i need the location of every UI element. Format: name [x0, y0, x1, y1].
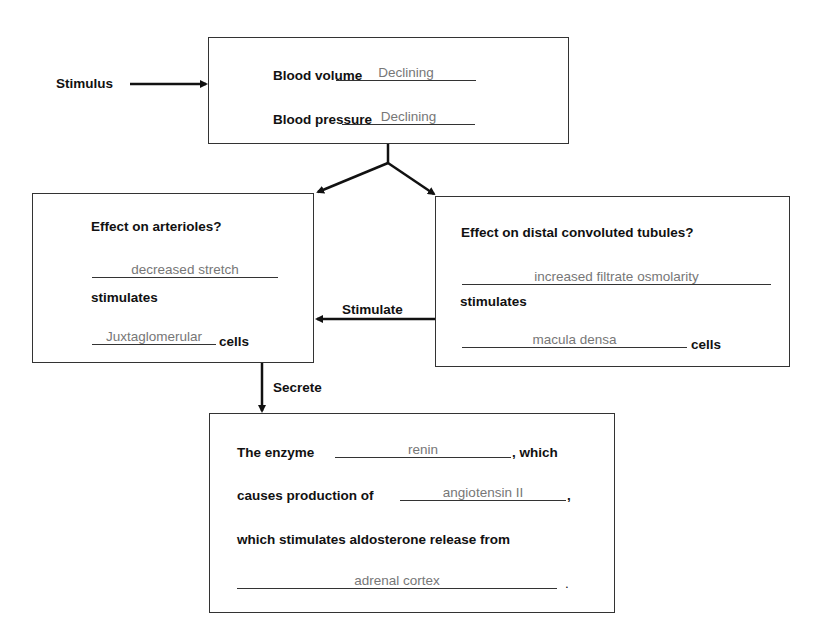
enzyme-line3: which stimulates aldosterone release fro… — [237, 532, 510, 547]
blood-pressure-answer[interactable]: Declining — [342, 109, 475, 125]
distal-tubules-answer-2[interactable]: macula densa — [462, 332, 687, 348]
stimulate-arrow-label: Stimulate — [342, 302, 403, 317]
enzyme-box: The enzyme renin , which causes producti… — [209, 413, 615, 613]
production-answer[interactable]: angiotensin II — [400, 485, 566, 501]
blood-volume-answer[interactable]: Declining — [336, 65, 476, 81]
arterioles-answer-2[interactable]: Juxtaglomerular — [92, 329, 216, 345]
enzyme-line2-prefix: causes production of — [237, 488, 374, 503]
top-box: Blood volume Declining Blood pressure De… — [208, 37, 569, 144]
enzyme-line4-suffix: . — [565, 576, 569, 591]
secrete-arrow-label: Secrete — [273, 380, 322, 395]
arterioles-cells-label: cells — [219, 334, 249, 349]
distal-tubules-question: Effect on distal convoluted tubules? — [461, 225, 694, 240]
enzyme-line1-prefix: The enzyme — [237, 445, 314, 460]
arterioles-box: Effect on arterioles? decreased stretch … — [32, 193, 314, 363]
arterioles-question: Effect on arterioles? — [91, 219, 222, 234]
enzyme-answer[interactable]: renin — [335, 442, 511, 458]
distal-tubules-answer-1[interactable]: increased filtrate osmolarity — [462, 269, 771, 285]
distal-tubules-box: Effect on distal convoluted tubules? inc… — [435, 196, 790, 367]
enzyme-line1-suffix: , which — [512, 445, 558, 460]
enzyme-line2-suffix: , — [567, 488, 571, 503]
distal-tubules-cells-label: cells — [691, 337, 721, 352]
aldosterone-source-answer[interactable]: adrenal cortex — [237, 573, 557, 589]
distal-tubules-stimulates-label: stimulates — [460, 294, 527, 309]
stimulus-label: Stimulus — [56, 76, 113, 91]
arterioles-answer-1[interactable]: decreased stretch — [92, 262, 278, 278]
arterioles-stimulates-label: stimulates — [91, 290, 158, 305]
